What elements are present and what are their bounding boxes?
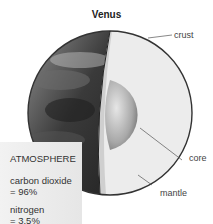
atmosphere-heading: ATMOSPHERE <box>10 153 76 164</box>
label-mantle: mantle <box>160 188 187 198</box>
atmosphere-item-name: carbon dioxide <box>10 175 72 186</box>
atmosphere-item-value: = 96% <box>10 186 37 197</box>
crust-leader-line <box>148 35 172 38</box>
atmosphere-item-name: nitrogen <box>10 204 44 215</box>
atmosphere-item-value: = 3.5% <box>10 215 40 224</box>
label-crust: crust <box>174 30 194 40</box>
label-core: core <box>189 153 207 163</box>
